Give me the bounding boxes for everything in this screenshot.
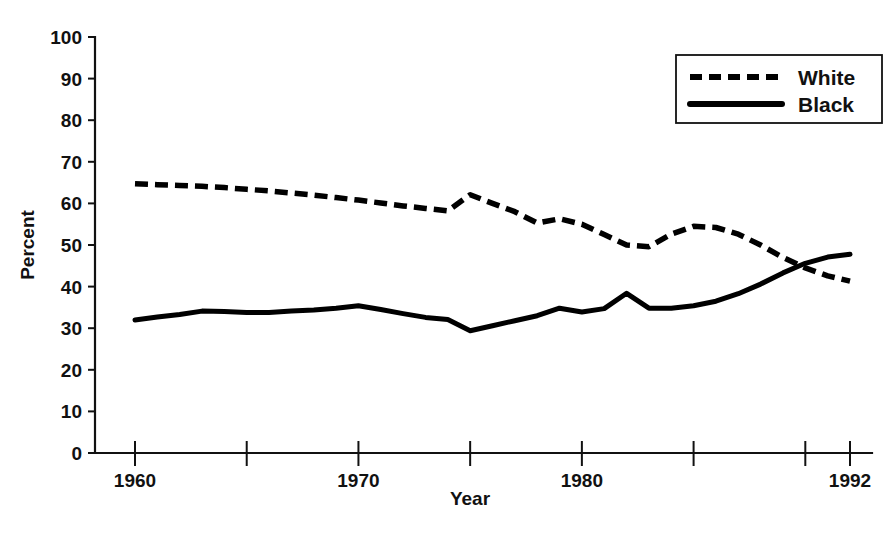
y-tick-label: 70 xyxy=(61,152,82,173)
y-tick-label: 80 xyxy=(61,110,82,131)
y-tick-label: 60 xyxy=(61,193,82,214)
y-tick-label: 30 xyxy=(61,318,82,339)
legend-label-black: Black xyxy=(798,93,854,116)
y-tick-label: 0 xyxy=(71,443,82,464)
series-line-black xyxy=(135,254,850,331)
x-tick-label: 1992 xyxy=(829,470,871,491)
y-tick-label: 40 xyxy=(61,277,82,298)
caption-strip-cropped xyxy=(0,527,896,537)
legend-label-white: White xyxy=(798,66,855,89)
chart-container: Percent Year 0102030405060708090100 1960… xyxy=(0,0,896,537)
series-line-white xyxy=(135,184,850,281)
x-tick-label: 1960 xyxy=(114,470,156,491)
x-tick-label: 1980 xyxy=(561,470,603,491)
series-layer xyxy=(135,184,850,331)
y-tick-label: 10 xyxy=(61,401,82,422)
chart-legend: White Black xyxy=(676,55,882,123)
y-tick-label: 20 xyxy=(61,360,82,381)
y-tick-label: 50 xyxy=(61,235,82,256)
y-axis-title: Percent xyxy=(17,209,38,279)
line-chart: Percent Year 0102030405060708090100 1960… xyxy=(0,0,896,537)
x-axis-ticks: 1960197019801992 xyxy=(114,441,871,491)
x-axis-title: Year xyxy=(450,488,491,509)
y-tick-label: 100 xyxy=(50,27,82,48)
x-tick-label: 1970 xyxy=(337,470,379,491)
y-axis-ticks: 0102030405060708090100 xyxy=(50,27,95,464)
y-tick-label: 90 xyxy=(61,69,82,90)
